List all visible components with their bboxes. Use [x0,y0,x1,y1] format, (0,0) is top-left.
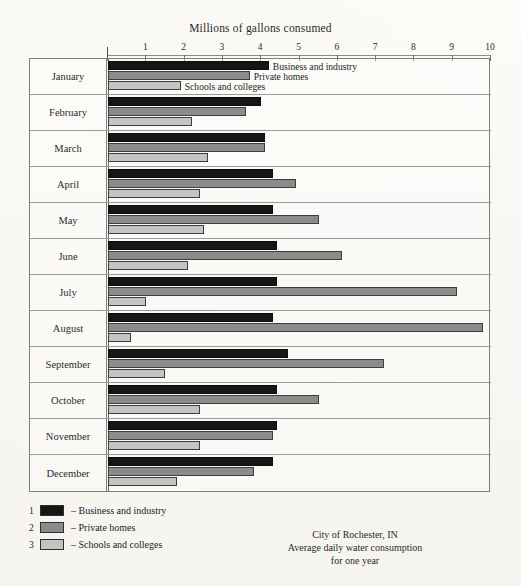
bar-december-series-1 [108,457,273,466]
caption-line-1: City of Rochester, IN [240,528,470,541]
caption-line-2: Average daily water consumption [240,541,470,554]
bar-september-series-2 [108,359,384,368]
legend-item-schools: 3 – Schools and colleges [29,536,269,553]
row-plot-area [107,383,491,418]
bar-august-series-2 [108,323,483,332]
bar-july-series-2 [108,287,457,296]
row-label-may: May [30,203,107,238]
chart-caption: City of Rochester, IN Average daily wate… [240,528,470,568]
bar-april-series-2 [108,179,296,188]
axis-tick-label-4: 4 [258,42,263,52]
chart-page: Millions of gallons consumed 12345678910… [0,0,521,586]
bar-november-series-1 [108,421,277,430]
legend-number: 1 [29,505,40,516]
chart-row-july: July [30,275,491,311]
legend-swatch-homes [40,522,64,533]
bar-february-series-2 [108,107,246,116]
bar-october-series-1 [108,385,277,394]
legend-label-homes: – Private homes [71,522,135,533]
inline-label-schools: Schools and colleges [185,81,265,92]
row-plot-area [107,239,491,274]
row-label-july: July [30,275,107,310]
bar-june-series-2 [108,251,342,260]
bar-december-series-3 [108,477,177,486]
row-label-june: June [30,239,107,274]
bar-october-series-2 [108,395,319,404]
chart-row-may: May [30,203,491,239]
row-label-august: August [30,311,107,346]
legend-number: 3 [29,539,40,550]
bar-march-series-2 [108,143,265,152]
row-label-march: March [30,131,107,166]
row-plot-area [107,95,491,130]
bar-may-series-2 [108,215,319,224]
bar-june-series-3 [108,261,188,270]
row-label-december: December [30,455,107,491]
bar-may-series-1 [108,205,273,214]
row-plot-area [107,347,491,382]
legend-label-business: – Business and industry [71,505,166,516]
bar-july-series-3 [108,297,146,306]
legend-swatch-business [40,505,64,516]
axis-tick-label-7: 7 [373,42,378,52]
row-plot-area [107,311,491,346]
row-plot-area [107,131,491,166]
row-plot-area [107,167,491,202]
legend-number: 2 [29,522,40,533]
chart-row-february: February [30,95,491,131]
bar-september-series-1 [108,349,288,358]
chart-row-january: JanuaryBusiness and industryPrivate home… [30,59,491,95]
bar-november-series-3 [108,441,200,450]
row-plot-area [107,419,491,454]
row-plot-area: Business and industryPrivate homesSchool… [107,59,491,94]
row-label-february: February [30,95,107,130]
row-plot-area [107,455,491,491]
bar-january-series-3 [108,81,181,90]
bar-february-series-3 [108,117,192,126]
axis-tick-label-9: 9 [449,42,454,52]
chart-row-march: March [30,131,491,167]
chart-row-june: June [30,239,491,275]
plot-frame: JanuaryBusiness and industryPrivate home… [29,58,490,492]
chart-legend: 1 – Business and industry 2 – Private ho… [29,502,269,553]
bar-august-series-1 [108,313,273,322]
legend-label-schools: – Schools and colleges [71,539,162,550]
axis-tick-label-2: 2 [181,42,186,52]
bar-november-series-2 [108,431,273,440]
axis-tick-label-8: 8 [411,42,416,52]
row-plot-area [107,275,491,310]
chart-row-october: October [30,383,491,419]
row-label-november: November [30,419,107,454]
bar-january-series-2 [108,71,250,80]
legend-swatch-schools [40,539,64,550]
axis-tick-label-10: 10 [485,42,495,52]
chart-row-december: December [30,455,491,491]
bar-august-series-3 [108,333,131,342]
axis-tick-label-6: 6 [334,42,339,52]
chart-title: Millions of gallons consumed [0,22,521,34]
row-label-january: January [30,59,107,94]
bar-september-series-3 [108,369,165,378]
chart-row-april: April [30,167,491,203]
chart-row-november: November [30,419,491,455]
bar-march-series-3 [108,153,208,162]
bar-october-series-3 [108,405,200,414]
legend-item-homes: 2 – Private homes [29,519,269,536]
bar-july-series-1 [108,277,277,286]
caption-line-3: for one year [240,554,470,567]
legend-item-business: 1 – Business and industry [29,502,269,519]
bar-march-series-1 [108,133,265,142]
bar-june-series-1 [108,241,277,250]
bar-april-series-3 [108,189,200,198]
row-plot-area [107,203,491,238]
bar-april-series-1 [108,169,273,178]
bar-january-series-1 [108,61,269,70]
bar-february-series-1 [108,97,261,106]
chart-row-september: September [30,347,491,383]
axis-tick-label-3: 3 [220,42,225,52]
axis-tick-label-5: 5 [296,42,301,52]
chart-row-august: August [30,311,491,347]
row-label-april: April [30,167,107,202]
bar-may-series-3 [108,225,204,234]
row-label-october: October [30,383,107,418]
